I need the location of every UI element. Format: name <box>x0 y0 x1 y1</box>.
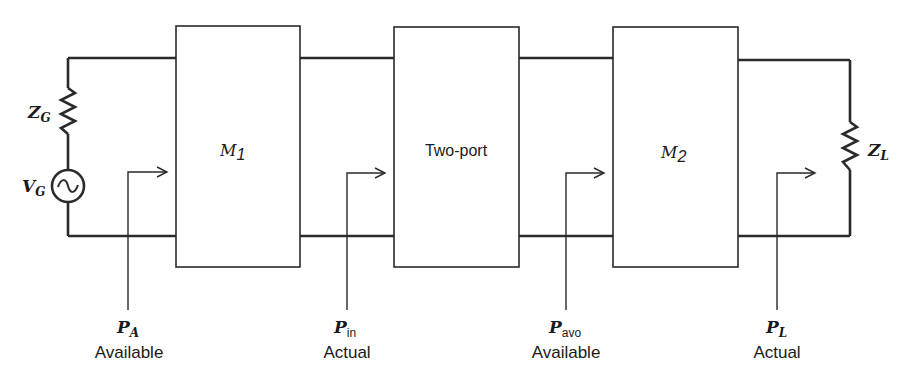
zl-label: ZL <box>867 140 889 163</box>
pl-arrow <box>777 173 814 310</box>
pa-arrow <box>128 172 166 310</box>
pin-caption: Actual <box>323 343 370 362</box>
zg-label: ZG <box>27 102 51 125</box>
pin-symbol: Pin <box>333 317 356 340</box>
vg-label: VG <box>22 176 45 199</box>
pa-caption: Available <box>95 343 164 362</box>
power-marker-pavo <box>566 168 604 310</box>
sine-wave-icon <box>58 180 78 192</box>
pl-caption: Actual <box>753 343 800 362</box>
power-marker-pl <box>777 168 815 310</box>
power-marker-pin <box>347 168 385 310</box>
pl-symbol: PL <box>765 317 787 340</box>
pavo-symbol: Pavo <box>548 317 581 340</box>
pavo-arrow <box>566 173 603 310</box>
power-marker-pa <box>128 167 167 310</box>
load-circuit <box>738 60 857 236</box>
two-port-label: Two-port <box>425 142 488 159</box>
load-impedance-resistor-icon <box>843 122 857 170</box>
source-circuit <box>52 58 176 236</box>
source-impedance-resistor-icon <box>61 88 75 134</box>
pa-symbol: PA <box>116 317 139 340</box>
circuit-diagram: M1 Two-port M2 ZG VG ZL PA Available Pin… <box>0 0 914 377</box>
pavo-caption: Available <box>532 343 601 362</box>
pin-arrow <box>347 173 384 310</box>
